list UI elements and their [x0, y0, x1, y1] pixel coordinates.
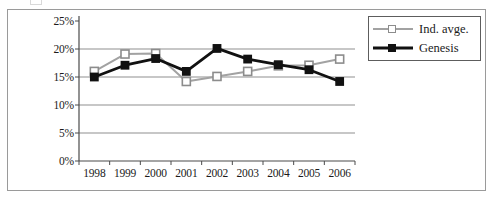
data-point-marker [91, 73, 98, 80]
data-point-marker [213, 45, 220, 52]
legend-marker-genesis [388, 44, 396, 52]
figure-page: 0%5%10%15%20%25% 19981999200020012002200… [0, 0, 494, 199]
y-axis-tick-label: 20% [42, 43, 74, 55]
chart-axes [79, 16, 355, 161]
y-axis-tick-label: 25% [42, 15, 74, 27]
data-point-marker [121, 50, 129, 58]
chart-legend: Ind. avge. Genesis [368, 16, 481, 61]
legend-label-ind-avge: Ind. avge. [419, 22, 469, 37]
x-axis-tick-label: 2006 [329, 167, 351, 179]
axis-ticks [75, 21, 355, 165]
data-point-marker [183, 68, 190, 75]
x-axis-tick-label: 1998 [83, 167, 105, 179]
data-point-marker [305, 66, 312, 73]
data-point-marker [336, 78, 343, 85]
legend-item-ind-avge: Ind. avge. [373, 20, 469, 38]
y-axis-tick-label: 0% [42, 155, 74, 167]
x-axis-tick-label: 1999 [114, 167, 136, 179]
x-axis-tick-label: 2002 [206, 167, 228, 179]
legend-swatch-ind-avge [373, 22, 413, 36]
data-series [90, 45, 343, 86]
legend-item-genesis: Genesis [373, 39, 459, 57]
data-point-marker [152, 55, 159, 62]
data-point-marker [244, 55, 251, 62]
x-axis-tick-label: 2004 [267, 167, 289, 179]
x-axis-tick-label: 2003 [237, 167, 259, 179]
y-axis-tick-label: 10% [42, 99, 74, 111]
x-axis-tick-label: 2005 [298, 167, 320, 179]
x-axis-tick-label: 2000 [145, 167, 167, 179]
data-point-marker [244, 67, 252, 75]
legend-label-genesis: Genesis [419, 41, 459, 56]
data-point-marker [336, 55, 344, 63]
legend-marker-ind-avge [388, 25, 396, 33]
legend-swatch-genesis [373, 41, 413, 55]
data-point-marker [213, 72, 221, 80]
y-axis-tick-label: 5% [42, 127, 74, 139]
y-axis-tick-label: 15% [42, 71, 74, 83]
data-point-marker [121, 62, 128, 69]
data-point-marker [182, 77, 190, 85]
x-axis-tick-label: 2001 [175, 167, 197, 179]
data-point-marker [275, 61, 282, 68]
